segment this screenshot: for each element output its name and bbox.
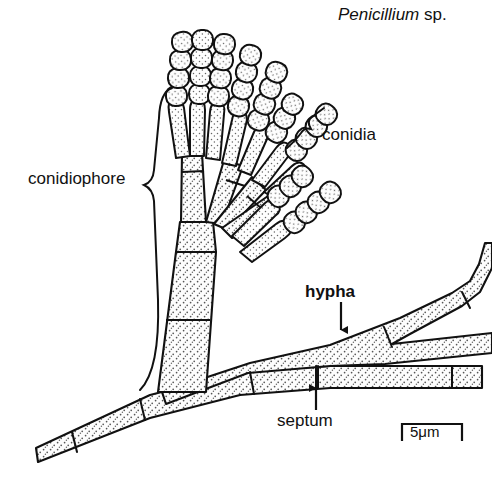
hypha-label: hypha [305,283,355,300]
stipe-column [158,252,216,392]
stipe-upper [176,222,216,252]
conidiophore-label: conidiophore [28,170,125,187]
figure-title: Penicillium sp. [338,6,447,23]
conidiophore-stipe [158,222,216,392]
metula-septum-1 [182,171,204,172]
phialide-3 [206,102,224,160]
penicillium-diagram: Penicillium sp. conidia conidiophore hyp… [0,0,492,486]
scale-bar-label: 5μm [410,424,439,439]
phialide-2 [190,99,205,156]
septum-label: septum [277,412,333,429]
phialide-1 [169,99,190,158]
metula-1 [181,153,206,222]
title-qualifier: sp. [419,5,446,24]
lower-left-hypha [36,366,482,462]
title-genus: Penicillium [338,5,419,24]
diagram-drawing [0,0,492,486]
conidia-label: conidia [322,126,376,143]
